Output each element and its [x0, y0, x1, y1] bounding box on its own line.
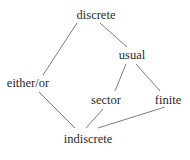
edge-discrete-to-either-or: [43, 23, 77, 75]
diagram-canvas: discreteusualeither/orsectorfiniteindisc…: [0, 0, 190, 160]
node-usual: usual: [119, 48, 146, 62]
edge-discrete-to-usual: [100, 23, 127, 47]
node-finite: finite: [155, 93, 182, 107]
hasse-diagram: discreteusualeither/orsectorfiniteindisc…: [0, 0, 190, 160]
node-either-or: either/or: [7, 76, 50, 90]
edge-usual-to-sector: [115, 64, 126, 91]
node-sector: sector: [91, 93, 122, 107]
edge-usual-to-finite: [136, 64, 160, 91]
node-indiscrete: indiscrete: [64, 132, 113, 146]
edge-either-or-to-indiscrete: [39, 92, 75, 128]
edge-sector-to-indiscrete: [86, 109, 103, 128]
edge-finite-to-indiscrete: [98, 107, 165, 128]
node-discrete: discrete: [77, 8, 116, 22]
edges-group: [39, 23, 165, 128]
nodes-group: discreteusualeither/orsectorfiniteindisc…: [7, 8, 182, 146]
